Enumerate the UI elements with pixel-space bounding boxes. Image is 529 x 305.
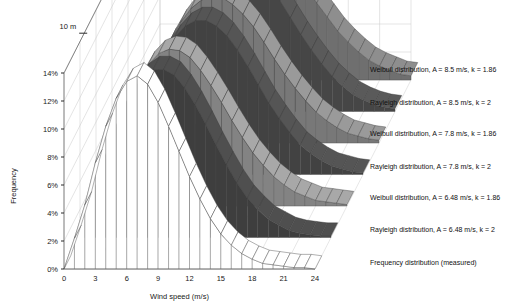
legend-item-label: Rayleigh distribution, A = 8.5 m/s, k = … bbox=[370, 99, 491, 107]
wind-speed-frequency-chart: 036912151821240%2%4%6%8%10%12%14%Wind sp… bbox=[0, 0, 529, 305]
x-tick-label: 9 bbox=[156, 274, 160, 283]
y-tick-label: 8% bbox=[47, 153, 58, 162]
legend-item-label: Rayleigh distribution, A = 6.48 m/s, k =… bbox=[370, 226, 495, 234]
x-axis-title: Wind speed (m/s) bbox=[150, 292, 209, 301]
y-tick-label: 0% bbox=[47, 265, 58, 274]
depth-tick-label: 10 m bbox=[60, 22, 77, 31]
x-tick-label: 3 bbox=[93, 274, 97, 283]
ribbon-front-face bbox=[127, 76, 137, 269]
y-axis-title: Frequency bbox=[9, 168, 18, 204]
x-tick-label: 0 bbox=[62, 274, 66, 283]
legend-item-label: Weibull distribution, A = 6.48 m/s, k = … bbox=[370, 194, 500, 201]
legend-item-label: Weibull distribution, A = 7.8 m/s, k = 1… bbox=[370, 130, 496, 137]
y-tick-label: 2% bbox=[47, 237, 58, 246]
x-tick-label: 24 bbox=[311, 274, 319, 283]
legend-item-label: Rayleigh distribution, A = 7.8 m/s, k = … bbox=[370, 163, 491, 171]
ribbon-front-face bbox=[158, 102, 168, 269]
ribbon-front-face bbox=[321, 236, 331, 237]
x-tick-label: 15 bbox=[217, 274, 225, 283]
y-tick-label: 4% bbox=[47, 209, 58, 218]
ribbon-front-face bbox=[116, 81, 126, 269]
y-tick-label: 14% bbox=[43, 69, 58, 78]
x-tick-label: 21 bbox=[279, 274, 287, 283]
x-tick-label: 6 bbox=[125, 274, 129, 283]
x-tick-label: 18 bbox=[248, 274, 256, 283]
y-tick-label: 6% bbox=[47, 181, 58, 190]
x-tick-label: 12 bbox=[185, 274, 193, 283]
chart-canvas: 036912151821240%2%4%6%8%10%12%14%Wind sp… bbox=[0, 0, 529, 305]
legend-item-label: Frequency distribution (measured) bbox=[370, 259, 477, 267]
ribbon-front-face bbox=[137, 76, 147, 269]
y-tick-label: 12% bbox=[43, 97, 58, 106]
ribbon-series-layer bbox=[64, 0, 418, 269]
ribbon-front-face bbox=[148, 84, 158, 269]
legend-item-label: Weibull distribution, A = 8.5 m/s, k = 1… bbox=[370, 66, 496, 73]
y-tick-label: 10% bbox=[43, 125, 58, 134]
